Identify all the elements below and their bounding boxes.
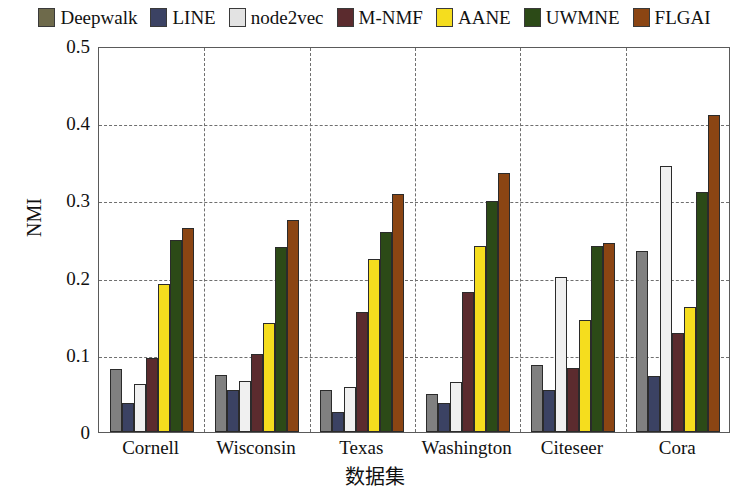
bar[interactable] <box>696 192 708 432</box>
bar[interactable] <box>555 277 567 432</box>
bar[interactable] <box>239 381 251 432</box>
bar-group <box>310 48 415 432</box>
bar[interactable] <box>158 284 170 432</box>
x-tick-label: Citeseer <box>519 437 624 459</box>
x-tick-label: Washington <box>414 437 519 459</box>
bar[interactable] <box>380 232 392 432</box>
legend-entry-m-nmf[interactable]: M-NMF <box>337 8 423 27</box>
legend-label: Deepwalk <box>60 8 137 27</box>
bar-group <box>626 48 731 432</box>
bars-container <box>99 48 204 432</box>
bar[interactable] <box>275 247 287 432</box>
bar[interactable] <box>344 387 356 432</box>
bar[interactable] <box>603 243 615 432</box>
bar[interactable] <box>122 403 134 432</box>
chart-legend: DeepwalkLINEnode2vecM-NMFAANEUWMNEFLGAI <box>0 0 749 34</box>
bar-group <box>204 48 309 432</box>
bar[interactable] <box>356 312 368 432</box>
x-tick-label: Wisconsin <box>203 437 308 459</box>
y-tick-label: 0 <box>40 422 90 444</box>
bar[interactable] <box>498 173 510 432</box>
plot-area <box>98 47 730 433</box>
bar[interactable] <box>567 368 579 432</box>
y-tick-label: 0.4 <box>40 113 90 135</box>
bar[interactable] <box>438 403 450 432</box>
y-tick-label: 0.1 <box>40 345 90 367</box>
bar[interactable] <box>170 240 182 432</box>
x-tick-label: Texas <box>309 437 414 459</box>
bar[interactable] <box>110 369 122 432</box>
bar-group <box>415 48 520 432</box>
x-tick-label: Cornell <box>98 437 203 459</box>
bar[interactable] <box>543 390 555 432</box>
bar-group <box>99 48 204 432</box>
bars-container <box>415 48 520 432</box>
legend-label: FLGAI <box>655 8 711 27</box>
legend-swatch-icon <box>229 8 246 27</box>
bar[interactable] <box>215 375 227 432</box>
legend-swatch-icon <box>633 8 650 27</box>
bar[interactable] <box>660 166 672 432</box>
legend-label: AANE <box>458 8 511 27</box>
bars-container <box>204 48 309 432</box>
y-tick-label: 0.3 <box>40 190 90 212</box>
legend-swatch-icon <box>524 8 541 27</box>
bar[interactable] <box>531 365 543 432</box>
bar[interactable] <box>591 246 603 432</box>
bar[interactable] <box>251 354 263 432</box>
bar[interactable] <box>227 390 239 432</box>
bar[interactable] <box>648 376 660 432</box>
legend-swatch-icon <box>38 8 55 27</box>
y-tick-label: 0.5 <box>40 36 90 58</box>
legend-label: node2vec <box>251 8 324 27</box>
legend-swatch-icon <box>150 8 167 27</box>
legend-entry-node2vec[interactable]: node2vec <box>229 8 324 27</box>
bar-group <box>520 48 625 432</box>
y-tick-label: 0.2 <box>40 268 90 290</box>
bars-container <box>310 48 415 432</box>
bar[interactable] <box>263 323 275 432</box>
bar[interactable] <box>474 246 486 432</box>
bar[interactable] <box>579 320 591 432</box>
bar[interactable] <box>368 259 380 432</box>
bar[interactable] <box>450 382 462 432</box>
legend-swatch-icon <box>436 8 453 27</box>
bar[interactable] <box>636 251 648 432</box>
legend-entry-deepwalk[interactable]: Deepwalk <box>38 8 137 27</box>
bar[interactable] <box>320 390 332 432</box>
x-tick-label: Cora <box>625 437 730 459</box>
bar[interactable] <box>134 384 146 432</box>
bar[interactable] <box>462 292 474 432</box>
bar[interactable] <box>708 115 720 432</box>
bar[interactable] <box>392 194 404 432</box>
bars-container <box>626 48 731 432</box>
bar[interactable] <box>182 228 194 432</box>
legend-label: M-NMF <box>359 8 423 27</box>
legend-entry-uwmne[interactable]: UWMNE <box>524 8 620 27</box>
bars-container <box>520 48 625 432</box>
legend-entry-aane[interactable]: AANE <box>436 8 511 27</box>
legend-label: UWMNE <box>546 8 620 27</box>
bar[interactable] <box>486 201 498 432</box>
bar-chart-figure: DeepwalkLINEnode2vecM-NMFAANEUWMNEFLGAI … <box>0 0 749 490</box>
bar[interactable] <box>426 394 438 432</box>
bar[interactable] <box>332 412 344 432</box>
bar[interactable] <box>146 358 158 432</box>
bar[interactable] <box>287 220 299 432</box>
legend-entry-line[interactable]: LINE <box>150 8 215 27</box>
x-axis-label: 数据集 <box>0 461 749 490</box>
bar[interactable] <box>684 307 696 432</box>
legend-swatch-icon <box>337 8 354 27</box>
legend-label: LINE <box>172 8 215 27</box>
legend-entry-flgai[interactable]: FLGAI <box>633 8 711 27</box>
bar[interactable] <box>672 333 684 432</box>
